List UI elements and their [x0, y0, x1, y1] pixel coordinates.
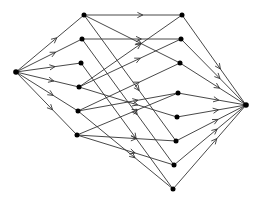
- node-R1: [180, 13, 185, 18]
- edge-S-L4: [16, 72, 79, 87]
- node-R5: [175, 115, 180, 120]
- node-R6: [174, 139, 179, 144]
- node-S: [13, 69, 19, 75]
- node-R3: [178, 61, 183, 66]
- edge-L5-R4: [78, 93, 178, 111]
- edge-L6-R4: [77, 93, 178, 135]
- arrowhead-icon: [47, 90, 53, 95]
- node-R8: [171, 187, 176, 192]
- edge-S-L5: [16, 72, 78, 111]
- node-L4: [77, 85, 82, 90]
- node-L1: [82, 13, 87, 18]
- node-L6: [75, 133, 80, 138]
- edge-R3-T: [180, 63, 246, 105]
- edge-R8-T: [173, 105, 246, 189]
- edge-R7-T: [174, 105, 246, 165]
- edge-R5-T: [177, 105, 246, 117]
- directed-graph: [0, 0, 263, 201]
- edges: [16, 12, 246, 189]
- node-R4: [176, 91, 181, 96]
- edge-L3-R8: [81, 63, 173, 189]
- node-T: [243, 102, 249, 108]
- edge-S-L6: [16, 72, 77, 135]
- edge-L6-R6: [77, 135, 176, 141]
- edge-L6-R7: [77, 135, 174, 165]
- node-R2: [179, 37, 184, 42]
- edge-L4-R1: [79, 15, 182, 87]
- node-L2: [80, 37, 85, 42]
- node-L5: [76, 109, 81, 114]
- edge-L4-R2: [79, 39, 181, 87]
- node-R7: [172, 163, 177, 168]
- edge-R1-T: [182, 15, 246, 105]
- node-L3: [79, 61, 84, 66]
- arrowhead-icon: [214, 83, 220, 88]
- edge-R6-T: [176, 105, 246, 141]
